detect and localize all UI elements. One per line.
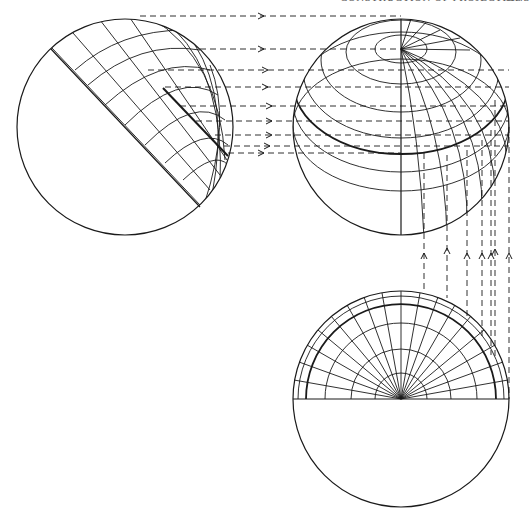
page-number: 113 [505,0,521,3]
vertical-arrow-icons [421,248,512,259]
side-globe-view [293,2,509,238]
running-title: CONSTRUCTION OF PROJECTIONS [340,0,530,3]
oblique-globe-view [17,15,233,235]
polar-globe-view [293,291,509,507]
